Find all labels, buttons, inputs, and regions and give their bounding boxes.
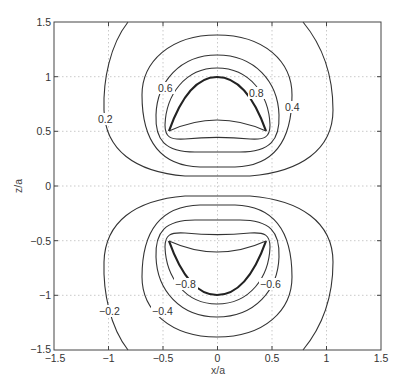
x-axis-label: x/a	[211, 364, 225, 376]
label-0.8: 0.8	[249, 87, 264, 99]
contour-1.0-inner	[169, 120, 266, 131]
x-tick-neg1.5: −1.5	[45, 352, 66, 364]
y-axis: 1.5 1 0.5 0 −0.5 −1 −1.5 z/a	[12, 16, 381, 355]
y-tick-0: 0	[45, 180, 51, 192]
contour-neg0.2	[104, 196, 333, 350]
positive-contours	[104, 22, 333, 176]
x-tick-1: 1	[324, 352, 330, 364]
contour-plot: 0.2 0.4 0.6 0.8 −0.2 −0.4 −0.8 −0.6 1.5 …	[0, 0, 406, 391]
x-axis: −1.5 −1 −0.5 0 0.5 1 1.5 x/a	[45, 22, 389, 376]
contour-0.2	[104, 22, 333, 176]
x-tick-neg0.5: −0.5	[153, 352, 174, 364]
label-0.4: 0.4	[285, 101, 300, 113]
grid	[54, 22, 381, 350]
y-tick-neg0.5: −0.5	[30, 235, 51, 247]
label-0.2: 0.2	[98, 113, 113, 125]
negative-contours	[104, 196, 333, 350]
x-tick-1.5: 1.5	[374, 352, 389, 364]
label-neg0.4: −0.4	[152, 305, 173, 317]
y-tick-1.5: 1.5	[36, 16, 51, 28]
label-0.6: 0.6	[158, 82, 173, 94]
x-tick-0.5: 0.5	[265, 352, 280, 364]
y-axis-label: z/a	[12, 179, 24, 193]
x-tick-neg1: −1	[103, 352, 115, 364]
y-tick-0.5: 0.5	[36, 125, 51, 137]
y-tick-neg1: −1	[39, 289, 51, 301]
label-neg0.8: −0.8	[175, 278, 196, 290]
label-neg0.2: −0.2	[99, 305, 120, 317]
y-tick-1: 1	[45, 71, 51, 83]
x-tick-0: 0	[215, 352, 221, 364]
label-neg0.6: −0.6	[260, 278, 281, 290]
